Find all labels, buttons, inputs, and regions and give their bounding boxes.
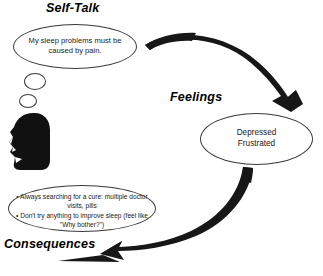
feelings-oval-text: Depressed Frustrated [201,128,312,149]
section-heading-consequences: Consequences [4,237,95,251]
consequences-oval-text: • Always searching for a cure: multiple … [9,192,155,229]
feelings-line-2: Frustrated [201,139,312,150]
thought-bubble-small-tiny [19,94,37,108]
section-heading-self-talk: Self-Talk [46,1,99,15]
cognitive-cycle-diagram: Self-Talk Feelings Consequences My sleep… [0,0,323,276]
curved-arrow-self-talk-to-feelings-icon [145,33,303,112]
feelings-line-1: Depressed [201,128,312,139]
thought-bubble-self-talk-text: My sleep problems must be caused by pain… [14,36,136,55]
thought-bubble-small-large [24,73,46,90]
consequences-bullet-1: • Always searching for a cure: multiple … [15,192,149,211]
feelings-oval: Depressed Frustrated [200,113,313,165]
head-profile-silhouette-icon [9,113,50,170]
section-heading-feelings: Feelings [170,90,222,104]
thought-bubble-self-talk: My sleep problems must be caused by pain… [13,24,137,69]
consequences-oval: • Always searching for a cure: multiple … [8,185,156,232]
consequences-bullet-2: • Don't try anything to improve sleep (f… [15,211,149,230]
